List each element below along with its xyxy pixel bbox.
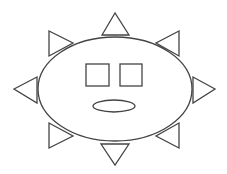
- left-eye-square: [86, 64, 109, 86]
- mouth-ellipse: [93, 100, 135, 112]
- right-eye-square: [120, 64, 142, 86]
- ray-left-triangle-icon: [14, 77, 37, 103]
- sun-face-diagram: [0, 0, 227, 174]
- ray-right-triangle-icon: [193, 77, 215, 103]
- face-ellipse: [38, 37, 192, 141]
- ray-bottom-triangle-icon: [101, 144, 129, 165]
- ray-top-triangle-icon: [102, 13, 129, 35]
